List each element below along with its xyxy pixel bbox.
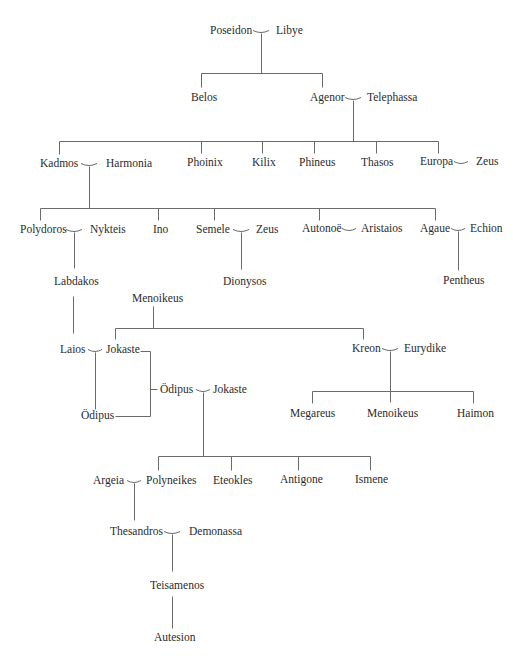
person-thesandros: Thesandros: [110, 526, 163, 538]
person-europa: Europa: [420, 156, 453, 168]
person-echion: Echion: [470, 223, 503, 235]
person-polydoros: Polydoros: [20, 224, 67, 236]
person-ino: Ino: [153, 224, 168, 236]
connector-lines: [0, 0, 513, 656]
person-demonassa: Demonassa: [189, 526, 242, 538]
person-telephassa: Telephassa: [367, 92, 417, 104]
person-libye: Libye: [276, 25, 303, 37]
person-semele: Semele: [196, 224, 230, 236]
marriage-connector: [342, 229, 356, 231]
person-antigone: Antigone: [280, 474, 323, 486]
person-argeia: Argeia: [93, 475, 124, 487]
person-teisamenos: Teisamenos: [150, 580, 204, 592]
family-tree-diagram: PoseidonLibyeBelosAgenorTelephassaKadmos…: [0, 0, 513, 656]
marriage-connector: [164, 532, 180, 534]
person-laios: Laios: [60, 344, 86, 356]
person-phoinix: Phoinix: [187, 157, 223, 169]
marriage-connector: [345, 98, 361, 100]
person-pentheus: Pentheus: [443, 275, 485, 287]
person-jokaste-1: Jokaste: [106, 344, 140, 356]
person-eurydike: Eurydike: [404, 343, 446, 355]
marriage-connector: [233, 230, 249, 232]
person-agenor: Agenor: [310, 92, 345, 104]
marriage-connector: [81, 164, 97, 166]
marriage-connector: [196, 390, 210, 392]
person-poseidon: Poseidon: [210, 25, 252, 37]
person-oedipus-1: Ödipus: [81, 410, 114, 422]
person-haimon: Haimon: [457, 408, 494, 420]
person-ismene: Ismene: [355, 474, 388, 486]
person-aristaios: Aristaios: [361, 223, 403, 235]
person-belos: Belos: [191, 92, 217, 104]
person-zeus-2: Zeus: [256, 224, 278, 236]
marriage-connector: [127, 481, 141, 483]
marriage-connector: [66, 230, 82, 232]
person-kilix: Kilix: [252, 157, 276, 169]
person-agaue: Agaue: [420, 223, 450, 235]
person-polyneikes: Polyneikes: [146, 475, 196, 487]
person-kadmos: Kadmos: [40, 158, 78, 170]
person-thasos: Thasos: [361, 157, 394, 169]
person-kreon: Kreon: [352, 343, 381, 355]
person-menoikeus-2: Menoikeus: [367, 408, 418, 420]
marriage-connector: [382, 349, 398, 351]
person-megareus: Megareus: [290, 408, 335, 420]
marriage-connector: [454, 162, 468, 164]
person-nykteis: Nykteis: [90, 224, 126, 236]
person-dionysos: Dionysos: [223, 276, 266, 288]
person-menoikeus-1: Menoikeus: [132, 293, 183, 305]
person-oedipus-2: Ödipus: [160, 384, 193, 396]
marriage-connector: [88, 350, 102, 352]
person-labdakos: Labdakos: [54, 276, 99, 288]
person-autesion: Autesion: [154, 632, 196, 644]
marriage-connector: [253, 31, 269, 33]
person-zeus-1: Zeus: [476, 156, 498, 168]
person-autonoe: Autonoë: [302, 223, 342, 235]
person-harmonia: Harmonia: [106, 158, 152, 170]
person-phineus: Phineus: [299, 157, 335, 169]
person-eteokles: Eteokles: [213, 475, 253, 487]
person-jokaste-2: Jokaste: [213, 384, 247, 396]
marriage-connector: [451, 229, 465, 231]
